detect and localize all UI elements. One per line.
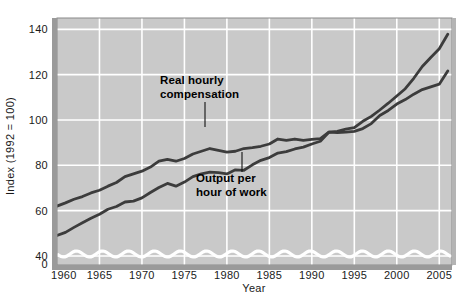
annotation-label-line2: compensation	[160, 88, 239, 100]
line-chart: 0406080100120140 19601965197019751980198…	[0, 0, 463, 299]
x-tick-label: 1980	[214, 269, 240, 281]
x-tick-label: 1960	[51, 269, 77, 281]
x-tick-label: 2005	[426, 269, 452, 281]
x-axis-tick-labels: 1960196519701975198019851990199520002005	[51, 269, 452, 281]
chart-figure: 0406080100120140 19601965197019751980198…	[0, 0, 463, 299]
x-axis-title: Year	[242, 282, 265, 294]
x-tick-label: 1990	[299, 269, 325, 281]
x-tick-label: 1970	[129, 269, 155, 281]
y-axis-tick-labels: 0406080100120140	[29, 23, 48, 270]
annotation-label-line2: hour of work	[196, 186, 267, 198]
x-tick-label: 2000	[384, 269, 410, 281]
annotation-label-line1: Real hourly	[160, 74, 224, 86]
y-tick-label: 40	[35, 250, 48, 262]
plot-left-axis-bar	[52, 18, 57, 270]
x-tick-label: 1975	[172, 269, 198, 281]
x-tick-label: 1995	[341, 269, 367, 281]
annotation-label-line1: Output per	[196, 172, 256, 184]
x-tick-label: 1965	[87, 269, 113, 281]
y-tick-label: 60	[35, 205, 48, 217]
plot-right-edge-bar	[452, 18, 456, 265]
plot-area-background	[57, 18, 452, 265]
y-tick-label: 120	[29, 69, 48, 81]
x-tick-label: 1985	[257, 269, 283, 281]
y-tick-label: 140	[29, 23, 48, 35]
y-axis-title: Index (1992 = 100)	[4, 97, 16, 195]
y-tick-label: 100	[29, 114, 48, 126]
y-tick-label: 80	[35, 159, 48, 171]
